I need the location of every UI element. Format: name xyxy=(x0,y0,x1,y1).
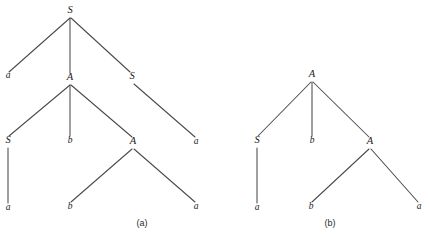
node-b-A-lower: A xyxy=(366,135,374,146)
node-A-mid: A xyxy=(66,71,74,82)
parse-tree-figure: S a A S S b A a a b a A S b A a xyxy=(0,0,429,238)
leaf-b-a-1: a xyxy=(255,202,260,212)
tree-a-nodes: S a A S S b A a a b a xyxy=(5,4,198,212)
edge-b-root-to-A xyxy=(313,82,369,137)
leaf-b-2: b xyxy=(68,201,73,211)
leaf-b-b-2: b xyxy=(309,201,314,211)
leaf-a-2: a xyxy=(194,136,199,146)
tree-b-edges xyxy=(257,82,418,203)
leaf-a-1: a xyxy=(6,70,11,80)
edge-A2-to-a xyxy=(134,149,195,202)
edge-A-to-S xyxy=(9,85,70,136)
parse-tree-canvas: S a A S S b A a a b a A S b A a xyxy=(0,0,429,238)
node-S-root: S xyxy=(67,4,73,15)
tree-b-nodes: A S b A a b a xyxy=(254,68,421,212)
edge-A2-to-b xyxy=(71,149,132,202)
edge-S-to-a xyxy=(134,84,195,137)
edge-b-A-to-a xyxy=(371,149,418,202)
node-b-S: S xyxy=(254,134,260,145)
edge-root-to-S xyxy=(71,18,130,72)
node-b-A-root: A xyxy=(308,68,316,79)
node-S-right: S xyxy=(129,70,135,81)
leaf-b-1: b xyxy=(68,135,73,145)
edge-A-to-A xyxy=(71,85,132,137)
edge-b-A-to-b xyxy=(312,149,369,202)
leaf-b-a-2: a xyxy=(417,201,422,211)
node-A-lower: A xyxy=(129,135,137,146)
edge-root-to-a xyxy=(9,18,70,72)
caption-b: (b) xyxy=(325,218,336,228)
tree-a-edges xyxy=(8,18,195,203)
caption-a: (a) xyxy=(137,218,148,228)
leaf-a-4: a xyxy=(194,201,199,211)
leaf-a-3: a xyxy=(6,202,11,212)
node-S-left: S xyxy=(5,134,11,145)
edge-b-root-to-S xyxy=(258,82,311,136)
leaf-b-b-1: b xyxy=(310,135,315,145)
